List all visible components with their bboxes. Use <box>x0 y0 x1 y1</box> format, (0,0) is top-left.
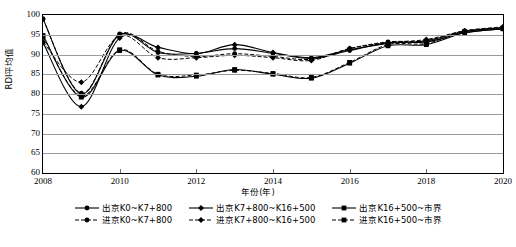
circle-legend-icon <box>74 203 100 213</box>
y-tick-label: 65 <box>6 148 40 157</box>
y-tick-label: 75 <box>6 109 40 118</box>
square-marker <box>342 218 347 223</box>
legend-item[interactable]: 出京K7+800~K16+500 <box>188 203 315 213</box>
x-tick-mark <box>196 169 197 173</box>
gridline <box>43 74 503 75</box>
diamond-marker <box>198 217 204 223</box>
gridline <box>43 94 503 95</box>
x-tick-label: 2010 <box>100 176 140 186</box>
diamond-legend-icon <box>188 215 214 225</box>
y-tick-label: 95 <box>6 30 40 39</box>
diamond-marker <box>78 104 84 110</box>
legend-row: 进京K0~K7+800进京K7+800~K16+500进京K16+500~市界 <box>74 215 442 225</box>
gridline <box>43 134 503 135</box>
legend-label: 进京K16+500~市界 <box>359 215 442 225</box>
y-tick-label: 80 <box>6 89 40 98</box>
square-marker <box>117 47 122 52</box>
square-marker <box>386 42 391 47</box>
circle-marker <box>84 206 89 211</box>
legend-label: 进京K7+800~K16+500 <box>216 215 315 225</box>
diamond-marker <box>155 55 161 61</box>
gridline <box>43 114 503 115</box>
x-tick-label: 2012 <box>176 176 216 186</box>
legend-item[interactable]: 进京K0~K7+800 <box>74 215 172 225</box>
chart-legend: 出京K0~K7+800出京K7+800~K16+500出京K16+500~市界进… <box>0 203 516 225</box>
square-marker <box>347 60 352 65</box>
circle-legend-icon <box>74 215 100 225</box>
square-marker <box>309 75 314 80</box>
series-6 <box>43 26 503 98</box>
series-2 <box>43 25 503 110</box>
gridline <box>43 55 503 56</box>
x-tick-label: 2020 <box>483 176 516 186</box>
legend-item[interactable]: 出京K16+500~市界 <box>331 203 442 213</box>
legend-item[interactable]: 进京K16+500~市界 <box>331 215 442 225</box>
legend-label: 出京K0~K7+800 <box>102 203 172 213</box>
legend-item[interactable]: 出京K0~K7+800 <box>74 203 172 213</box>
y-tick-label: 100 <box>6 10 40 19</box>
x-tick-label: 2016 <box>330 176 370 186</box>
legend-label: 进京K0~K7+800 <box>102 215 172 225</box>
plot-area <box>42 14 504 174</box>
x-axis-title: 年份(年) <box>0 188 516 197</box>
series-3 <box>43 26 503 99</box>
x-tick-label: 2018 <box>406 176 446 186</box>
diamond-marker <box>78 79 84 85</box>
square-legend-icon <box>331 215 357 225</box>
square-marker <box>342 206 347 211</box>
x-tick-mark <box>120 169 121 173</box>
diamond-marker <box>198 205 204 211</box>
legend-row: 出京K0~K7+800出京K7+800~K16+500出京K16+500~市界 <box>74 203 442 213</box>
y-tick-label: 70 <box>6 129 40 138</box>
rdi-line-chart: RDI平均值 1009590858075706560 2008201020122… <box>0 0 516 247</box>
circle-marker <box>84 218 89 223</box>
gridline <box>43 35 503 36</box>
square-marker <box>501 26 503 31</box>
square-marker <box>424 41 429 46</box>
legend-label: 出京K16+500~市界 <box>359 203 442 213</box>
x-tick-label: 2014 <box>253 176 293 186</box>
gridline <box>43 153 503 154</box>
y-tick-label: 85 <box>6 69 40 78</box>
legend-item[interactable]: 进京K7+800~K16+500 <box>188 215 315 225</box>
square-legend-icon <box>331 203 357 213</box>
y-tick-label: 90 <box>6 50 40 59</box>
y-axis-tick-labels: 1009590858075706560 <box>0 14 40 174</box>
legend-label: 出京K7+800~K16+500 <box>216 203 315 213</box>
circle-marker <box>156 49 161 54</box>
diamond-marker <box>232 42 238 48</box>
x-tick-mark <box>350 169 351 173</box>
square-marker <box>462 29 467 34</box>
x-tick-mark <box>273 169 274 173</box>
square-marker <box>232 68 237 73</box>
x-tick-mark <box>426 169 427 173</box>
circle-marker <box>43 17 45 22</box>
diamond-legend-icon <box>188 203 214 213</box>
x-tick-label: 2008 <box>23 176 63 186</box>
